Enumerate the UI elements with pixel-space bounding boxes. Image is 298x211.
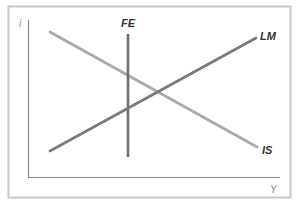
is-curve-label: IS	[262, 144, 273, 156]
fe-line-label: FE	[121, 17, 136, 29]
is-lm-fe-diagram: i Y IS FE LM	[0, 0, 298, 211]
diagram-frame	[9, 7, 291, 198]
lm-curve-label: LM	[260, 30, 277, 42]
